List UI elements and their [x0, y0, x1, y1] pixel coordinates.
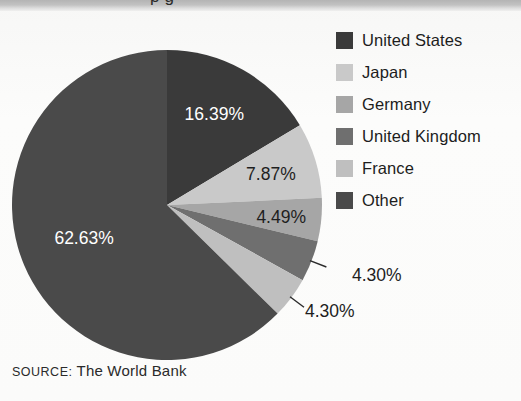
legend-swatch-icon	[336, 32, 353, 49]
legend-item-label: Germany	[362, 95, 431, 114]
legend-swatch-icon	[336, 96, 353, 113]
legend-item-label: Other	[362, 191, 404, 210]
legend: United StatesJapanGermanyUnited KingdomF…	[336, 24, 518, 216]
legend-item[interactable]: Germany	[336, 88, 518, 120]
legend-item[interactable]: United Kingdom	[336, 120, 518, 152]
pie-chart-figure: p g 16.39%7.87%4.49%4.30%4.30%62.63% Uni…	[0, 0, 521, 401]
slice-value-label: 62.63%	[54, 228, 113, 248]
legend-item-label: Japan	[362, 63, 407, 82]
source-label: SOURCE:	[12, 365, 72, 379]
slice-value-label: 4.30%	[352, 265, 402, 285]
legend-swatch-icon	[336, 160, 353, 177]
slice-value-label: 7.87%	[246, 164, 296, 184]
pie-slices-group	[12, 50, 322, 360]
slice-value-label: 4.30%	[305, 301, 355, 321]
legend-swatch-icon	[336, 192, 353, 209]
legend-item[interactable]: Japan	[336, 56, 518, 88]
legend-item[interactable]: Other	[336, 184, 518, 216]
legend-item[interactable]: France	[336, 152, 518, 184]
source-note: SOURCE: The World Bank	[12, 362, 187, 379]
label-leader-line	[310, 261, 326, 267]
legend-item-label: United Kingdom	[362, 127, 481, 146]
label-leader-line	[290, 297, 304, 308]
legend-swatch-icon	[336, 128, 353, 145]
slice-value-label: 4.49%	[256, 207, 306, 227]
legend-item-label: France	[362, 159, 414, 178]
source-value: The World Bank	[72, 362, 186, 379]
legend-swatch-icon	[336, 64, 353, 81]
slice-value-label: 16.39%	[185, 104, 244, 124]
legend-item[interactable]: United States	[336, 24, 518, 56]
legend-item-label: United States	[362, 31, 462, 50]
